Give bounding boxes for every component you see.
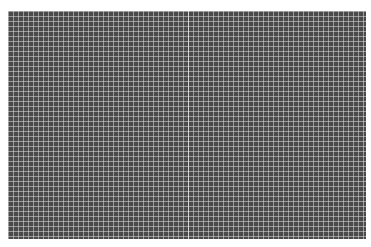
center-divider-line [188, 11, 189, 239]
grid-pattern [8, 11, 366, 239]
